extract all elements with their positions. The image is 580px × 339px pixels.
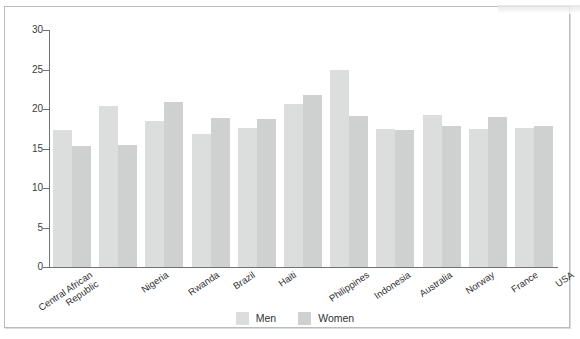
bar-women — [534, 126, 553, 267]
x-axis-tick-label: Nigeria — [139, 269, 170, 295]
scan-artifact-top — [0, 0, 580, 5]
bar-men — [423, 115, 442, 267]
chart-frame: 051015202530 Central African RepublicNig… — [4, 6, 570, 328]
bar-group — [376, 30, 414, 267]
bar-men — [515, 128, 534, 267]
legend-item[interactable]: Men — [236, 312, 276, 325]
bar-men — [284, 104, 303, 267]
x-axis-tick-label: Haiti — [276, 269, 298, 289]
bar-group — [469, 30, 507, 267]
legend-label: Women — [318, 313, 354, 324]
x-axis-tick-label: USA — [553, 269, 575, 289]
y-axis-tick — [43, 149, 49, 150]
x-axis-line — [49, 267, 558, 268]
bar-women — [72, 146, 91, 267]
x-axis-tick-label: Indonesia — [372, 269, 412, 301]
chart-legend: MenWomen — [5, 312, 580, 325]
y-axis-tick — [43, 109, 49, 110]
y-axis-labels: 051015202530 — [13, 7, 43, 339]
legend-label: Men — [256, 313, 276, 324]
bar-women — [488, 117, 507, 267]
x-axis-tick-label: Norway — [463, 269, 496, 296]
bar-women — [303, 95, 322, 267]
bar-men — [238, 128, 257, 267]
y-axis-tick-label: 10 — [21, 183, 43, 193]
bar-group — [53, 30, 91, 267]
bar-men — [330, 70, 349, 268]
bar-group — [192, 30, 230, 267]
bar-women — [211, 118, 230, 267]
y-axis-tick-label: 30 — [21, 25, 43, 35]
bar-women — [442, 126, 461, 267]
y-axis-tick-label: 15 — [21, 144, 43, 154]
bar-men — [376, 129, 395, 267]
bar-women — [257, 119, 276, 267]
plot-area — [49, 30, 557, 267]
y-axis-tick-label: 25 — [21, 65, 43, 75]
x-axis-tick-label: Rwanda — [186, 269, 221, 298]
bar-women — [118, 145, 137, 267]
bar-group — [423, 30, 461, 267]
bar-women — [164, 102, 183, 267]
legend-swatch — [236, 312, 249, 325]
y-axis-tick — [43, 30, 49, 31]
bar-group — [99, 30, 137, 267]
bar-group — [515, 30, 553, 267]
bar-men — [145, 121, 164, 267]
y-axis-tick — [43, 267, 49, 268]
bar-men — [192, 134, 211, 267]
bar-women — [395, 130, 414, 267]
y-axis-tick-label: 5 — [21, 223, 43, 233]
bar-men — [469, 129, 488, 267]
y-axis-tick-label: 0 — [21, 262, 43, 272]
y-axis-tick — [43, 70, 49, 71]
legend-item[interactable]: Women — [298, 312, 354, 325]
x-axis-tick-label: Australia — [418, 269, 455, 299]
bar-group — [238, 30, 276, 267]
y-axis-tick — [43, 228, 49, 229]
bar-group — [145, 30, 183, 267]
y-axis-tick-label: 20 — [21, 104, 43, 114]
bar-group — [284, 30, 322, 267]
y-axis-tick — [43, 188, 49, 189]
bar-group — [330, 30, 368, 267]
x-axis-tick-label: Philippines — [327, 269, 371, 304]
bar-women — [349, 116, 368, 267]
legend-swatch — [298, 312, 311, 325]
x-axis-tick-label: France — [509, 269, 540, 295]
bar-men — [53, 130, 72, 267]
bar-men — [99, 106, 118, 267]
x-axis-tick-label: Brazil — [231, 269, 257, 291]
